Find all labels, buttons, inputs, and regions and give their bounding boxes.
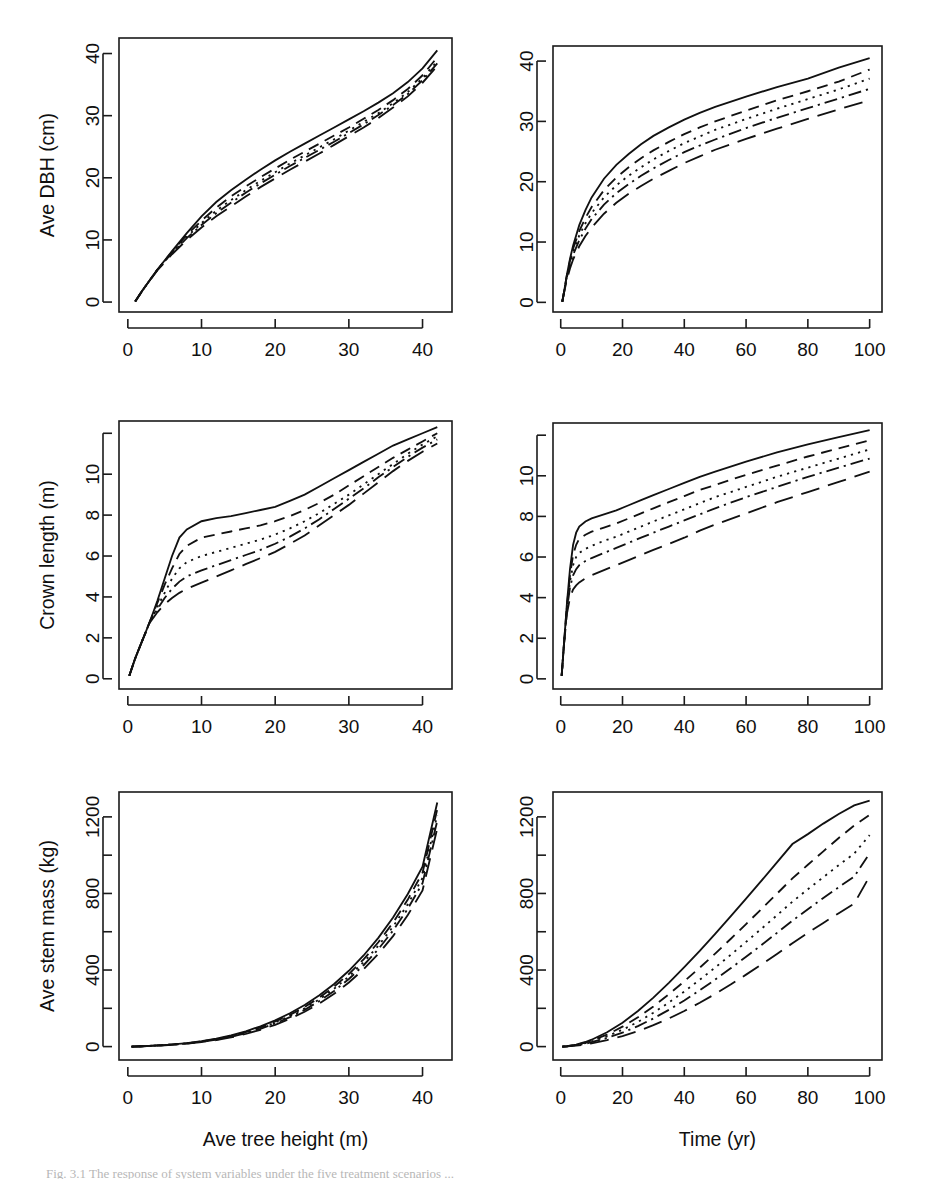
y-tick-label: 20: [83, 167, 104, 188]
y-tick-label: 2: [517, 633, 538, 644]
y-tick-label: 0: [517, 674, 538, 685]
x-tick-label: 10: [191, 716, 212, 737]
curve-dotted: [562, 449, 870, 675]
x-axis-title: Ave tree height (m): [203, 1128, 368, 1150]
curve-dotted: [562, 835, 869, 1047]
y-tick-label: 400: [517, 954, 538, 986]
curve-long-dash: [562, 876, 869, 1046]
y-tick-label: 0: [83, 1041, 104, 1052]
plot-frame: [553, 46, 882, 312]
x-tick-label: 80: [797, 339, 818, 360]
x-tick-label: 10: [191, 339, 212, 360]
plot-frame: [119, 38, 452, 312]
x-tick-label: 60: [736, 1087, 757, 1108]
x-tick-label: 40: [674, 1087, 695, 1108]
y-tick-label: 10: [83, 464, 104, 485]
y-tick-label: 20: [517, 171, 538, 192]
plot-panel-crown-vs-time: 0204060801000246810: [461, 401, 904, 785]
x-axis-title: Time (yr): [679, 1128, 756, 1150]
multi-panel-figure: 010203040010203040Ave DBH (cm)0204060801…: [0, 0, 926, 1180]
plot-frame: [553, 792, 882, 1060]
y-tick-label: 2: [83, 633, 104, 644]
y-tick-label: 30: [83, 105, 104, 126]
curve-long-dash: [129, 444, 437, 676]
x-tick-label: 20: [612, 339, 633, 360]
y-tick-label: 8: [83, 510, 104, 521]
x-tick-label: 100: [854, 1087, 886, 1108]
curve-dotted: [562, 79, 869, 302]
x-tick-label: 0: [555, 339, 566, 360]
y-tick-label: 40: [83, 43, 104, 64]
curve-dashed: [562, 440, 870, 676]
curve-dash-dot: [135, 63, 437, 301]
y-axis-title: Ave stem mass (kg): [36, 840, 58, 1012]
y-tick-label: 4: [517, 592, 538, 603]
x-tick-label: 0: [123, 716, 134, 737]
curve-dashed: [562, 70, 869, 302]
x-tick-label: 40: [674, 716, 695, 737]
y-tick-label: 0: [517, 297, 538, 308]
x-tick-label: 40: [412, 339, 433, 360]
curve-dash-dot: [562, 853, 869, 1046]
curve-long-dash: [562, 472, 870, 676]
plot-panel-mass-vs-height: 01020304004008001200Ave stem mass (kg)Av…: [27, 770, 474, 1156]
x-tick-label: 40: [412, 1087, 433, 1108]
x-tick-label: 20: [265, 716, 286, 737]
x-tick-label: 80: [797, 1087, 818, 1108]
figure-caption: Fig. 3.1 The response of system variable…: [46, 1166, 886, 1179]
x-tick-label: 0: [555, 1087, 566, 1108]
curve-solid: [132, 803, 438, 1047]
x-tick-label: 0: [555, 716, 566, 737]
plot-panel-dbh-vs-time: 020406080100010203040: [461, 24, 904, 408]
x-tick-label: 20: [612, 716, 633, 737]
y-tick-label: 40: [517, 51, 538, 72]
curve-dotted: [135, 61, 437, 301]
x-tick-label: 40: [412, 716, 433, 737]
x-tick-label: 20: [265, 1087, 286, 1108]
x-tick-label: 30: [338, 1087, 359, 1108]
x-tick-label: 10: [191, 1087, 212, 1108]
curve-dashed: [562, 815, 869, 1047]
y-tick-label: 30: [517, 111, 538, 132]
y-tick-label: 800: [83, 878, 104, 910]
curve-solid: [562, 430, 870, 676]
x-tick-label: 30: [338, 339, 359, 360]
curve-dashed: [132, 809, 438, 1046]
y-tick-label: 800: [517, 878, 538, 910]
y-tick-label: 10: [83, 229, 104, 250]
x-tick-label: 100: [854, 339, 886, 360]
y-tick-label: 0: [83, 297, 104, 308]
y-tick-label: 8: [517, 511, 538, 522]
plot-frame: [553, 423, 882, 689]
x-tick-label: 30: [338, 716, 359, 737]
curve-dash-dot: [132, 821, 438, 1047]
y-tick-label: 0: [517, 1041, 538, 1052]
curve-dashed: [129, 433, 437, 675]
plot-panel-dbh-vs-height: 010203040010203040Ave DBH (cm): [27, 16, 474, 408]
y-tick-label: 400: [83, 954, 104, 986]
curve-dash-dot: [562, 459, 870, 676]
x-tick-label: 40: [674, 339, 695, 360]
x-tick-label: 20: [612, 1087, 633, 1108]
y-tick-label: 10: [517, 465, 538, 486]
curve-dash-dot: [129, 439, 437, 675]
y-tick-label: 1200: [83, 796, 104, 838]
y-tick-label: 6: [517, 552, 538, 563]
plot-panel-crown-vs-height: 0102030400246810Crown length (m): [27, 399, 474, 785]
plot-panel-mass-vs-time: 02040608010004008001200Time (yr): [461, 770, 904, 1156]
x-tick-label: 20: [265, 339, 286, 360]
y-tick-label: 4: [83, 591, 104, 602]
x-tick-label: 100: [854, 716, 886, 737]
y-tick-label: 10: [517, 231, 538, 252]
y-tick-label: 6: [83, 551, 104, 562]
y-tick-label: 1200: [517, 796, 538, 838]
x-tick-label: 60: [736, 716, 757, 737]
curve-solid: [135, 50, 437, 301]
curve-long-dash: [132, 828, 438, 1046]
x-tick-label: 0: [123, 1087, 134, 1108]
x-tick-label: 80: [797, 716, 818, 737]
x-tick-label: 60: [736, 339, 757, 360]
y-axis-title: Ave DBH (cm): [36, 113, 58, 237]
y-axis-title: Crown length (m): [36, 480, 58, 630]
x-tick-label: 0: [123, 339, 134, 360]
